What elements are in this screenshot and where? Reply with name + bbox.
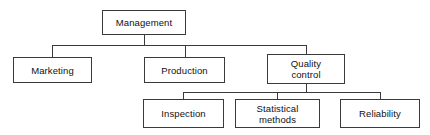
node-quality-control[interactable]: Quality control bbox=[267, 54, 345, 84]
node-marketing[interactable]: Marketing bbox=[13, 57, 92, 83]
org-chart-diagram: ManagementMarketingProductionQuality con… bbox=[0, 0, 430, 135]
node-label: Statistical methods bbox=[257, 103, 299, 125]
node-label: Reliability bbox=[359, 108, 401, 119]
node-reliability[interactable]: Reliability bbox=[340, 99, 420, 128]
node-label: Marketing bbox=[31, 65, 74, 76]
node-label: Production bbox=[161, 65, 207, 76]
node-label: Management bbox=[116, 17, 172, 28]
node-production[interactable]: Production bbox=[144, 57, 225, 83]
node-label: Quality control bbox=[291, 58, 321, 80]
node-management[interactable]: Management bbox=[102, 10, 186, 35]
node-statistical-methods[interactable]: Statistical methods bbox=[235, 99, 320, 128]
node-inspection[interactable]: Inspection bbox=[143, 99, 224, 128]
node-label: Inspection bbox=[161, 108, 205, 119]
